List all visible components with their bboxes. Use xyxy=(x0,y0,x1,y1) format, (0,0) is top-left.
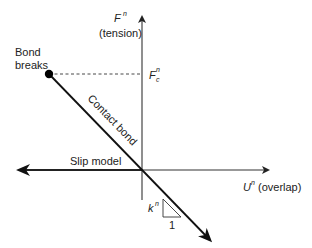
horizontal-axis-superscript: n xyxy=(251,179,255,186)
svg-text:Bond: Bond xyxy=(15,46,41,58)
slope-run-label: 1 xyxy=(169,219,175,231)
svg-text:k: k xyxy=(148,202,154,214)
horizontal-axis-caption: (overlap) xyxy=(258,181,301,193)
vertical-axis-superscript: n xyxy=(123,10,127,17)
bond-break-point xyxy=(45,70,53,78)
bond-breaks-label: Bond breaks xyxy=(15,46,49,71)
vertical-axis-label: F n (tension) xyxy=(99,10,142,39)
svg-text:n: n xyxy=(156,66,160,73)
svg-text:breaks: breaks xyxy=(15,59,49,71)
slip-model-label: Slip model xyxy=(70,155,121,167)
stiffness-label: k n xyxy=(148,200,159,214)
svg-text:c: c xyxy=(156,76,160,83)
diagram-canvas: F n (tension) Bond breaks F n c Contact … xyxy=(0,0,312,248)
vertical-axis-caption: (tension) xyxy=(99,27,142,39)
horizontal-axis-symbol: U xyxy=(243,181,251,193)
horizontal-axis-label: U n (overlap) xyxy=(243,179,301,193)
critical-force-label: F n c xyxy=(149,66,160,83)
vertical-axis-symbol: F xyxy=(114,12,122,24)
svg-text:n: n xyxy=(155,200,159,207)
